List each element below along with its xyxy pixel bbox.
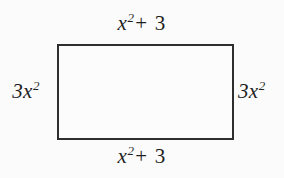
label-bottom-base: x bbox=[118, 144, 128, 168]
label-right-base: x bbox=[249, 79, 259, 103]
label-bottom-constant: 3 bbox=[155, 144, 166, 168]
side-label-bottom: x2+ 3 bbox=[0, 146, 284, 167]
label-bottom-operator: + bbox=[135, 144, 147, 168]
geometry-figure: x2+ 3 x2+ 3 3x2 3x2 bbox=[0, 0, 284, 178]
side-label-right: 3x2 bbox=[238, 81, 284, 102]
label-top-constant: 3 bbox=[155, 11, 166, 35]
label-right-coefficient: 3 bbox=[238, 79, 249, 103]
label-top-exponent: 2 bbox=[128, 10, 135, 25]
side-label-left: 3x2 bbox=[0, 81, 52, 102]
label-left-coefficient: 3 bbox=[12, 79, 23, 103]
label-left-exponent: 2 bbox=[33, 78, 40, 93]
label-left-base: x bbox=[23, 79, 33, 103]
rectangle-shape bbox=[57, 44, 234, 140]
label-top-base: x bbox=[118, 11, 128, 35]
label-top-operator: + bbox=[135, 11, 147, 35]
label-bottom-exponent: 2 bbox=[128, 143, 135, 158]
side-label-top: x2+ 3 bbox=[0, 13, 284, 34]
label-right-exponent: 2 bbox=[259, 78, 266, 93]
